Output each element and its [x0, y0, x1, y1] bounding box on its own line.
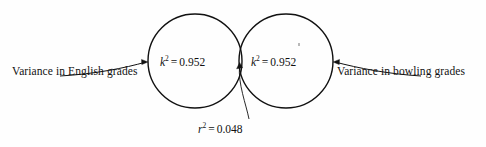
- overlap-formula-value: 0.048: [217, 123, 243, 135]
- left-formula-value: 0.952: [179, 56, 205, 68]
- left-set-label: Variance in English grades: [12, 66, 138, 78]
- venn-diagram-figure: Variance in English grades Variance in b…: [0, 0, 486, 147]
- overlap-formula-equals: =: [206, 123, 217, 135]
- left-formula-equals: =: [169, 56, 180, 68]
- right-leader-arrowhead: [333, 59, 340, 64]
- overlap-formula: r2=0.048: [198, 122, 243, 135]
- right-formula-equals: =: [260, 56, 271, 68]
- left-leader-arrowhead: [142, 59, 149, 64]
- right-set-label: Variance in bowling grades: [337, 66, 465, 78]
- scan-artifact-speck: [298, 43, 300, 46]
- right-circle-formula: k2=0.952: [251, 55, 296, 68]
- left-circle-formula: k2=0.952: [160, 55, 205, 68]
- right-formula-value: 0.952: [270, 56, 296, 68]
